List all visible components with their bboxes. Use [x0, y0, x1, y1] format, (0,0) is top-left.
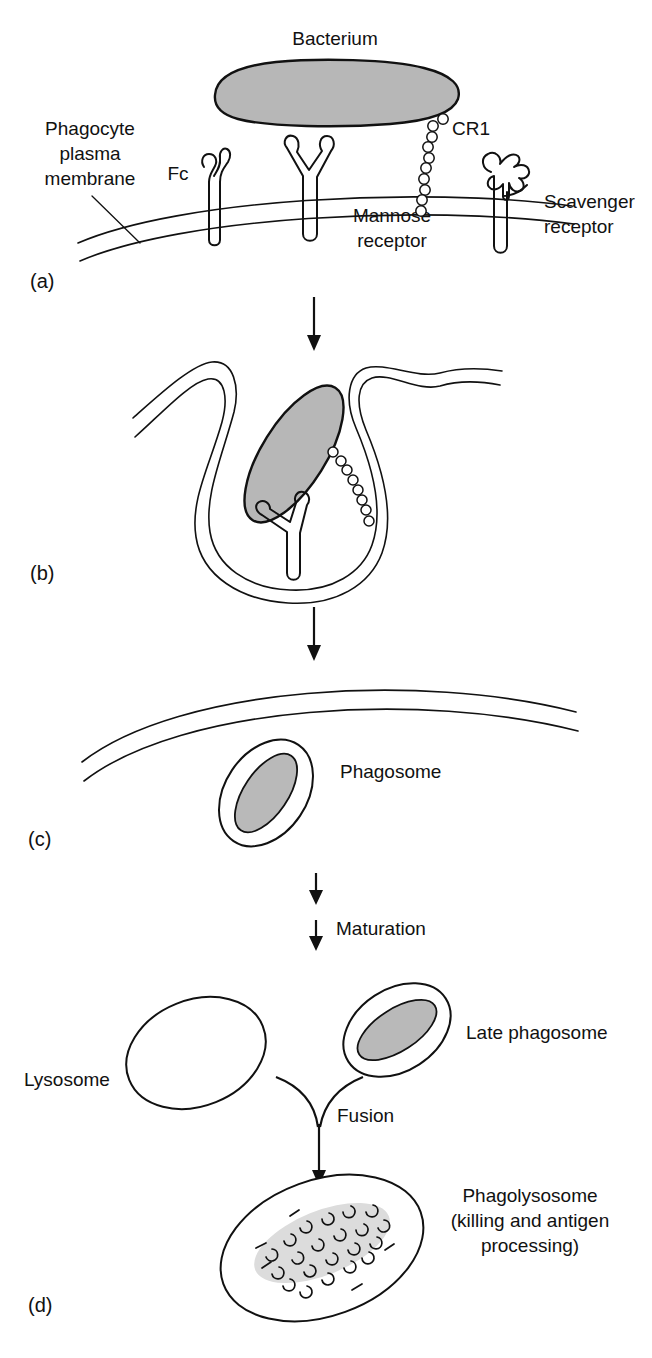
panel-c: Phagosome (c)	[28, 690, 578, 864]
panel-label-d: (d)	[28, 1294, 52, 1316]
plasma-membrane-outer-line-c	[82, 690, 576, 762]
arrow-maturation-1	[309, 873, 323, 905]
scavenger-receptor-icon	[483, 153, 529, 253]
maturation-label: Maturation	[336, 918, 426, 939]
scavenger-label-line2: receptor	[544, 216, 614, 237]
panel-label-a: (a)	[30, 270, 54, 292]
bacterium-shape	[215, 60, 459, 127]
panel-b: (b)	[30, 362, 502, 603]
arrow-maturation-2	[309, 920, 323, 951]
fc-label: Fc	[167, 163, 188, 184]
membrane-label-line2: plasma	[59, 143, 121, 164]
membrane-leader-line	[92, 196, 140, 243]
lysosome-label: Lysosome	[24, 1069, 110, 1090]
plasma-membrane-inner-line	[80, 215, 574, 261]
cr1-label: CR1	[452, 118, 490, 139]
plasma-membrane-inner-line-c	[84, 709, 578, 781]
panel-d: Lysosome Late phagosome Fusion	[24, 964, 609, 1348]
cr1-bead-chain-icon	[416, 114, 448, 216]
phagolysosome-label-line2: (killing and antigen	[451, 1210, 609, 1231]
late-phagosome-label: Late phagosome	[466, 1022, 608, 1043]
arrow-fusion	[276, 1077, 363, 1186]
membrane-label-line1: Phagocyte	[45, 118, 135, 139]
panel-label-b: (b)	[30, 562, 54, 584]
plasma-membrane-outer-line	[78, 197, 572, 243]
phagosome-label: Phagosome	[340, 761, 441, 782]
phagolysosome-label-line1: Phagolysosome	[462, 1185, 597, 1206]
fc-receptor-icon	[202, 149, 230, 246]
mannose-receptor-icon	[285, 136, 334, 241]
fusion-label: Fusion	[337, 1105, 394, 1126]
scavenger-label-line1: Scavenger	[544, 191, 636, 212]
panel-a: Bacterium Phagocyte plasma membrane Fc M…	[30, 28, 636, 292]
arrow-a-to-b	[307, 297, 321, 351]
bacterium-label: Bacterium	[292, 28, 378, 49]
phagocytosis-figure: Bacterium Phagocyte plasma membrane Fc M…	[0, 0, 652, 1358]
panel-label-c: (c)	[28, 828, 51, 850]
lysosome-shape	[109, 977, 282, 1129]
phagolysosome-label-line3: processing)	[481, 1235, 579, 1256]
mannose-label-line2: receptor	[357, 230, 427, 251]
membrane-label-line3: membrane	[45, 168, 136, 189]
arrow-b-to-c	[307, 607, 321, 661]
